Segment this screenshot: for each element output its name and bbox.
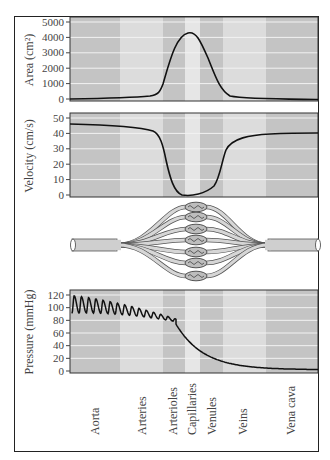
band-5 — [223, 17, 266, 101]
tick-label: 20 — [53, 352, 65, 364]
band-2 — [163, 113, 185, 197]
band-0 — [70, 17, 120, 101]
label-veins: Veins — [236, 408, 250, 435]
label-aorta: Aorta — [88, 407, 102, 435]
tick-label: 30 — [53, 142, 65, 154]
band-3 — [185, 17, 200, 101]
tick-label: 0 — [59, 189, 65, 201]
band-5 — [223, 113, 266, 197]
velocity-y-label: Velocity (cm/s) — [22, 119, 36, 193]
vessel-diagram — [71, 202, 321, 281]
tick-label: 50 — [53, 112, 65, 124]
label-arteries: Arteries — [135, 396, 149, 435]
label-vena-cava: Vena cava — [284, 385, 298, 435]
band-4 — [200, 17, 223, 101]
band-1 — [120, 17, 163, 101]
velocity-y-ticks: 01020304050 — [53, 112, 70, 201]
band-5 — [223, 290, 266, 373]
tick-label: 40 — [53, 339, 65, 351]
segment-bands — [70, 17, 318, 101]
tick-label: 20 — [53, 158, 65, 170]
tick-label: 120 — [48, 289, 65, 301]
pressure-panel: 020406080100120 Pressure (mmHg) — [22, 289, 318, 377]
tick-label: 0 — [59, 365, 65, 377]
tick-label: 3000 — [42, 46, 65, 58]
label-arterioles: Arterioles — [166, 387, 180, 435]
label-venules: Venules — [205, 397, 219, 435]
velocity-panel: 01020304050 Velocity (cm/s) — [22, 112, 318, 201]
tick-label: 100 — [48, 301, 65, 313]
band-1 — [120, 290, 163, 373]
tick-label: 60 — [53, 327, 65, 339]
band-6 — [266, 17, 318, 101]
band-2 — [163, 17, 185, 101]
x-axis-labels: Aorta Arteries Arterioles Capillaries Ve… — [88, 383, 298, 435]
band-4 — [200, 113, 223, 197]
band-6 — [266, 290, 318, 373]
band-6 — [266, 113, 318, 197]
tick-label: 2000 — [42, 62, 65, 74]
pressure-y-label: Pressure (mmHg) — [22, 290, 36, 375]
vessel-branches — [71, 202, 321, 281]
tick-label: 40 — [53, 127, 65, 139]
circulation-figure: 010002000300040005000 Area (cm²) 0102030… — [0, 0, 330, 460]
area-y-label: Area (cm²) — [22, 34, 36, 87]
area-panel: 010002000300040005000 Area (cm²) — [22, 16, 318, 105]
band-3 — [185, 113, 200, 197]
segment-bands — [70, 290, 318, 373]
band-1 — [120, 113, 163, 197]
area-y-ticks: 010002000300040005000 — [42, 16, 70, 105]
tick-label: 1000 — [42, 77, 65, 89]
tick-label: 5000 — [42, 16, 65, 28]
tick-label: 80 — [53, 314, 65, 326]
band-3 — [185, 290, 200, 373]
label-capillaries: Capillaries — [185, 383, 199, 435]
tick-label: 4000 — [42, 31, 65, 43]
tick-label: 10 — [53, 173, 65, 185]
pressure-y-ticks: 020406080100120 — [48, 289, 71, 377]
tick-label: 0 — [59, 93, 65, 105]
